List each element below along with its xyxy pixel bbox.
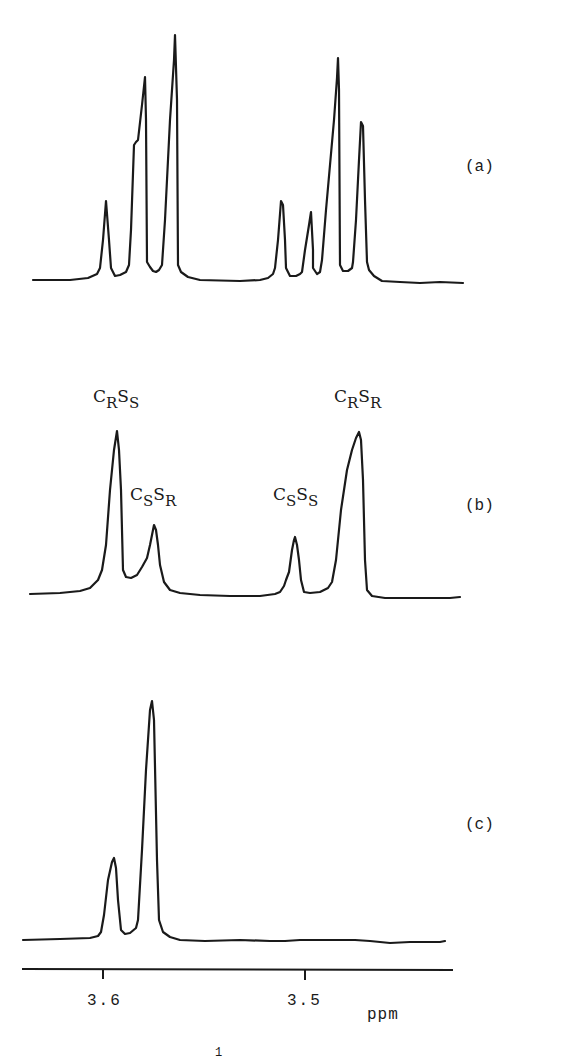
peak-label-csss-sub1: S (286, 492, 296, 510)
peak-label-csss-main: C (273, 484, 286, 504)
peak-label-crsr-sub1: R (347, 394, 358, 412)
peak-label-cssr-sub1: S (143, 492, 153, 510)
peak-label-csss-mid: S (296, 484, 308, 504)
x-axis-line (22, 969, 453, 970)
peak-label-crsr: CRSR (334, 386, 381, 412)
peak-label-crss-sub2: S (129, 394, 139, 412)
peak-label-csss-sub2: S (308, 492, 318, 510)
peak-label-crss-mid: S (117, 386, 129, 406)
peak-label-crss-main: C (93, 386, 106, 406)
peak-label-crsr-main: C (334, 386, 347, 406)
peak-label-crss: CRSS (93, 386, 139, 412)
peak-label-cssr-mid: S (153, 484, 165, 504)
peak-label-crss-sub1: R (106, 394, 117, 412)
caption-fragment: 1 (215, 1046, 222, 1056)
peak-label-crsr-mid: S (358, 386, 370, 406)
x-tick-label-3.6: 3.6 (87, 992, 122, 1010)
x-tick-label-3.5: 3.5 (287, 992, 322, 1010)
spectrum-trace-c (23, 701, 445, 943)
x-axis-unit-label: ppm (367, 1006, 399, 1024)
peak-label-csss: CSSS (273, 484, 318, 510)
peak-label-crsr-sub2: R (370, 394, 381, 412)
spectrum-trace-b (30, 431, 460, 598)
peak-label-cssr-main: C (130, 484, 143, 504)
trace-label-c: (c) (465, 816, 494, 834)
peak-label-cssr: CSSR (130, 484, 176, 510)
peak-label-cssr-sub2: R (165, 492, 176, 510)
trace-label-b: (b) (465, 497, 494, 515)
trace-label-a: (a) (465, 158, 494, 176)
spectrum-trace-a (33, 35, 463, 283)
